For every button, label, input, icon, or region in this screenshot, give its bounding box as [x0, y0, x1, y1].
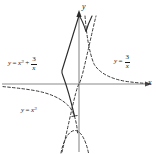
- curve-sum-lower-arch: [61, 130, 89, 153]
- curve-label-sum: y = x 3 + 3 x: [8, 56, 37, 72]
- plot-canvas: [0, 0, 156, 154]
- cubic-label-y: y: [21, 107, 24, 114]
- reciprocal-label-equals: =: [119, 58, 123, 65]
- reciprocal-label-fraction: 3 x: [125, 54, 131, 70]
- math-figure: y x y = x 3 + 3 x y = 3 x y = x 3: [0, 0, 156, 154]
- intersection-tick: [72, 116, 78, 117]
- curve-reciprocal-right: [85, 16, 149, 84]
- curve-label-cubic: y = x 3: [21, 107, 37, 114]
- sum-label-plus: +: [25, 60, 29, 67]
- sum-label-y: y: [8, 60, 11, 67]
- cubic-label-equals: =: [26, 107, 30, 114]
- x-axis-label: x: [148, 79, 152, 87]
- sum-label-frac-numerator: 3: [31, 56, 37, 63]
- sum-label-frac-denominator: x: [31, 65, 36, 72]
- reciprocal-label-y: y: [114, 58, 117, 65]
- curve-reciprocal-left: [3, 87, 78, 133]
- curve-label-reciprocal: y = 3 x: [114, 54, 131, 70]
- curve-sum-left: [62, 16, 79, 117]
- reciprocal-label-frac-denominator: x: [125, 63, 130, 70]
- y-axis-label: y: [82, 3, 86, 11]
- sum-label-fraction: 3 x: [31, 56, 37, 72]
- x-axis: [2, 81, 152, 86]
- sum-label-equals: =: [13, 60, 17, 67]
- reciprocal-label-frac-numerator: 3: [125, 54, 131, 61]
